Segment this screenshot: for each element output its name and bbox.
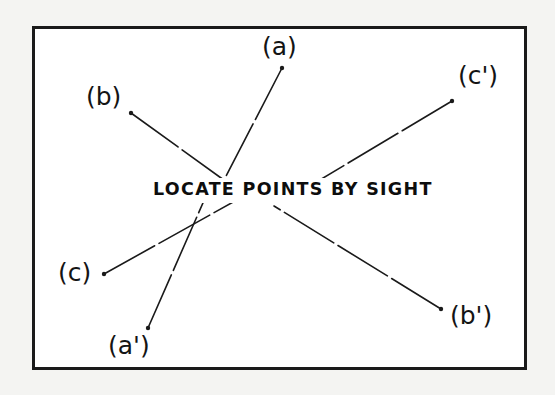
- point-label-c: (c): [58, 260, 91, 285]
- endpoint-dot-a-prime: [146, 326, 150, 330]
- line-c: [104, 196, 244, 274]
- endpoint-dot-a: [280, 66, 284, 70]
- point-label-c-prime: (c'): [458, 63, 498, 88]
- line-b: [131, 113, 228, 183]
- point-label-a: (a): [262, 34, 297, 59]
- point-label-b-prime: (b'): [450, 303, 492, 328]
- line-c-prime: [303, 101, 452, 190]
- point-label-a-prime: (a'): [108, 333, 150, 358]
- line-a: [222, 68, 282, 184]
- endpoint-dot-c-prime: [450, 99, 454, 103]
- center-caption: LOCATE POINTS BY SIGHT: [149, 178, 437, 203]
- line-a-prime: [148, 196, 206, 328]
- endpoint-dot-b: [129, 111, 133, 115]
- endpoint-dot-c: [102, 272, 106, 276]
- endpoint-dot-b-prime: [439, 307, 443, 311]
- line-b-prime: [274, 206, 441, 309]
- point-label-b: (b): [86, 84, 121, 109]
- figure-page: (a)(b)(c')(c)(a')(b') LOCATE POINTS BY S…: [0, 0, 555, 395]
